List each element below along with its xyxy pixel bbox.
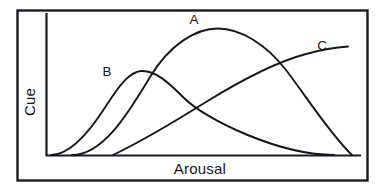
curve-b-label: B [102,64,111,79]
arousal-cue-figure: Cue Arousal A B C [0,0,386,194]
curve-c-label: C [317,38,327,53]
curve-a-label: A [189,12,198,27]
x-axis-label: Arousal [174,160,226,177]
y-axis-label: Cue [21,88,38,116]
